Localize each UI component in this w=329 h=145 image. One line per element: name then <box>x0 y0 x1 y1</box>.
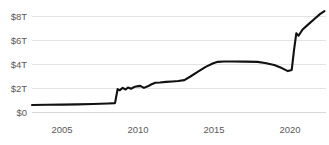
gridlines-group <box>32 17 326 113</box>
y-tick-label-2T: $2T <box>11 83 28 94</box>
x-tick-label-2005: 2005 <box>51 124 72 135</box>
x-tick-label-2015: 2015 <box>203 124 224 135</box>
x-tick-label-2020: 2020 <box>279 124 300 135</box>
y-axis-tick-labels: $8T $6T $4T $2T $0 <box>11 11 28 118</box>
series-line-total-assets <box>32 11 324 105</box>
x-axis-tick-labels: 2005 2010 2015 2020 <box>51 124 300 135</box>
y-tick-label-6T: $6T <box>11 35 28 46</box>
y-tick-label-0: $0 <box>16 107 27 118</box>
x-tick-label-2010: 2010 <box>127 124 148 135</box>
y-tick-label-4T: $4T <box>11 59 28 70</box>
chart-canvas: $8T $6T $4T $2T $0 2005 2010 2015 2020 <box>0 0 329 145</box>
line-chart: $8T $6T $4T $2T $0 2005 2010 2015 2020 <box>0 0 329 145</box>
y-tick-label-8T: $8T <box>11 11 28 22</box>
